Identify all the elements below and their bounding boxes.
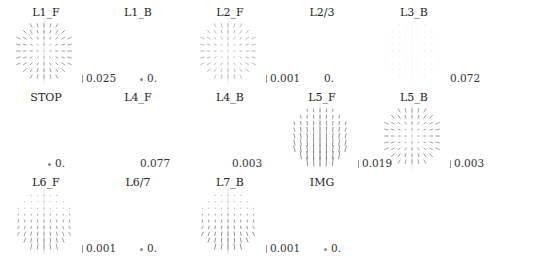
scale-indicator: 0. bbox=[140, 72, 157, 84]
vector-field-plot bbox=[372, 18, 452, 84]
panel-l7-b: L7_B0.001 bbox=[184, 170, 276, 256]
panel-title: IMG bbox=[276, 176, 368, 189]
scale-label: 0. bbox=[147, 242, 157, 254]
scale-bar-icon bbox=[266, 245, 267, 253]
panel-title: L6/7 bbox=[92, 176, 184, 189]
panel-l6-7: L6/70. bbox=[92, 170, 184, 256]
scale-bar-icon bbox=[358, 160, 359, 168]
panel-l5-b: L5_B0.003 bbox=[368, 85, 460, 171]
vector-field-plot bbox=[4, 18, 84, 84]
scale-label: 0.072 bbox=[450, 72, 480, 84]
panel-l4-b: L4_B0.003 bbox=[184, 85, 276, 171]
panel-title: L4_B bbox=[184, 91, 276, 104]
vector-field-plot bbox=[188, 188, 268, 254]
vector-field-plot bbox=[280, 103, 360, 169]
panel-l5-f: L5_F0.019 bbox=[276, 85, 368, 171]
scale-dot-icon bbox=[48, 163, 51, 166]
vector-field-plot bbox=[4, 188, 84, 254]
scale-bar-icon bbox=[82, 75, 83, 83]
scale-indicator: 0. bbox=[324, 72, 334, 84]
panel-title: L2/3 bbox=[276, 6, 368, 19]
scale-indicator: 0. bbox=[48, 157, 65, 169]
scale-indicator: 0. bbox=[140, 242, 157, 254]
panel-title: L1_B bbox=[92, 6, 184, 19]
panel-title: STOP bbox=[0, 91, 92, 104]
scale-indicator: 0. bbox=[324, 242, 341, 254]
scale-label: 0. bbox=[55, 157, 65, 169]
scale-dot-icon bbox=[140, 78, 143, 81]
scale-bar-icon bbox=[450, 160, 451, 168]
scale-indicator: 0.003 bbox=[232, 157, 262, 169]
panel-l3-b: L3_B0.072 bbox=[368, 0, 460, 86]
vector-field-plot bbox=[372, 103, 452, 169]
scale-label: 0. bbox=[147, 72, 157, 84]
vector-field-plot bbox=[188, 18, 268, 84]
panel-img: IMG0. bbox=[276, 170, 368, 256]
panel-l1-b: L1_B0. bbox=[92, 0, 184, 86]
panel-l4-f: L4_F0.077 bbox=[92, 85, 184, 171]
scale-indicator: 0.003 bbox=[450, 157, 484, 169]
panel-title: L4_F bbox=[92, 91, 184, 104]
scale-bar-icon bbox=[82, 245, 83, 253]
scale-label: 0.003 bbox=[454, 157, 484, 169]
scale-dot-icon bbox=[324, 248, 327, 251]
panel-l1-f: L1_F0.025 bbox=[0, 0, 92, 86]
panel-l6-f: L6_F0.001 bbox=[0, 170, 92, 256]
scale-label: 0.077 bbox=[140, 157, 170, 169]
scale-indicator: 0.077 bbox=[140, 157, 170, 169]
scale-indicator: 0.072 bbox=[450, 72, 480, 84]
panel-l2-f: L2_F0.001 bbox=[184, 0, 276, 86]
panel-l2-3: L2/30. bbox=[276, 0, 368, 86]
scale-bar-icon bbox=[266, 75, 267, 83]
scale-label: 0. bbox=[331, 242, 341, 254]
scale-label: 0.003 bbox=[232, 157, 262, 169]
panel-stop: STOP0. bbox=[0, 85, 92, 171]
scale-label: 0. bbox=[324, 72, 334, 84]
scale-dot-icon bbox=[140, 248, 143, 251]
